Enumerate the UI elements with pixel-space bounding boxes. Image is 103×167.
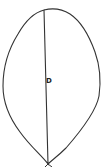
tail-right bbox=[48, 164, 52, 167]
tail-left bbox=[45, 164, 48, 167]
leaf-outline bbox=[3, 9, 100, 164]
shape-label: D bbox=[45, 76, 53, 86]
